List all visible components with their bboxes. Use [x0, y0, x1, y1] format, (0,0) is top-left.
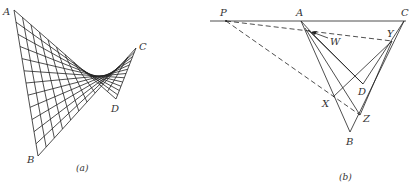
ruling-ad-bc: [65, 55, 87, 103]
line-A-B: [301, 21, 350, 132]
label-a-B: B: [26, 154, 34, 165]
label-b-D: D: [357, 86, 366, 97]
diagram-canvas: A B C D (a) P A C W Y D X Z B: [0, 0, 413, 184]
label-b-B: B: [345, 136, 353, 147]
figure-a-hyperbolic-paraboloid: [14, 10, 136, 156]
label-b-X: X: [321, 98, 330, 109]
label-a-D: D: [110, 103, 119, 114]
line-C-Y-Z: [360, 41, 392, 115]
figure-a-labels: A B C D (a): [2, 6, 147, 173]
ruling-ab-dc: [38, 48, 136, 156]
label-b-Z: Z: [362, 113, 371, 124]
point-P: [225, 20, 227, 22]
label-a-C: C: [139, 41, 147, 52]
dashed-P-Y: [226, 21, 392, 41]
label-b-W: W: [330, 36, 341, 47]
label-b-A: A: [295, 7, 303, 18]
label-a-A: A: [2, 6, 10, 17]
label-b-C: C: [401, 7, 409, 18]
caption-b: (b): [339, 172, 352, 182]
label-b-P: P: [219, 7, 227, 18]
line-C-D: [363, 21, 404, 84]
ruling-ad-bc: [116, 48, 136, 99]
figure-b-construction: [210, 20, 406, 132]
caption-a: (a): [76, 163, 89, 173]
